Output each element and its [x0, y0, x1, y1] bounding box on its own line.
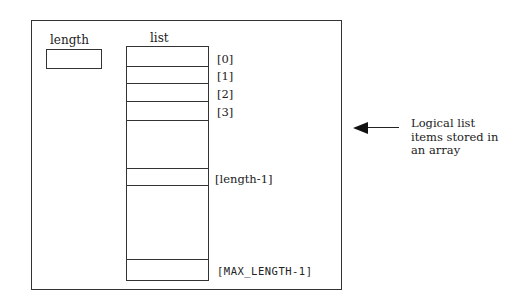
index-1-label: [1] [217, 70, 233, 82]
arrow-left-icon [353, 122, 368, 134]
index-0-label: [0] [217, 53, 233, 65]
length-variable-box [46, 49, 102, 69]
index-3-label: [3] [217, 106, 233, 118]
array-cell-divider [126, 66, 209, 67]
array-cell-divider [126, 83, 209, 84]
array-cell-divider [126, 101, 209, 102]
array-cell-divider [126, 259, 209, 260]
length-label: length [50, 34, 89, 46]
array-cell-divider [126, 168, 209, 169]
caption-line-3: an array [411, 144, 498, 158]
list-label: list [150, 32, 169, 44]
index-2-label: [2] [217, 88, 233, 100]
caption: Logical list items stored in an array [411, 117, 498, 158]
index-max-length-minus-1-label: [MAX_LENGTH-1] [217, 265, 313, 277]
index-length-minus-1-label: [length-1] [215, 173, 272, 185]
caption-line-1: Logical list [411, 117, 498, 131]
list-array-box [126, 46, 209, 281]
array-cell-divider [126, 185, 209, 186]
caption-line-2: items stored in [411, 131, 498, 145]
array-cell-divider [126, 120, 209, 121]
arrow-left-icon [366, 127, 399, 128]
